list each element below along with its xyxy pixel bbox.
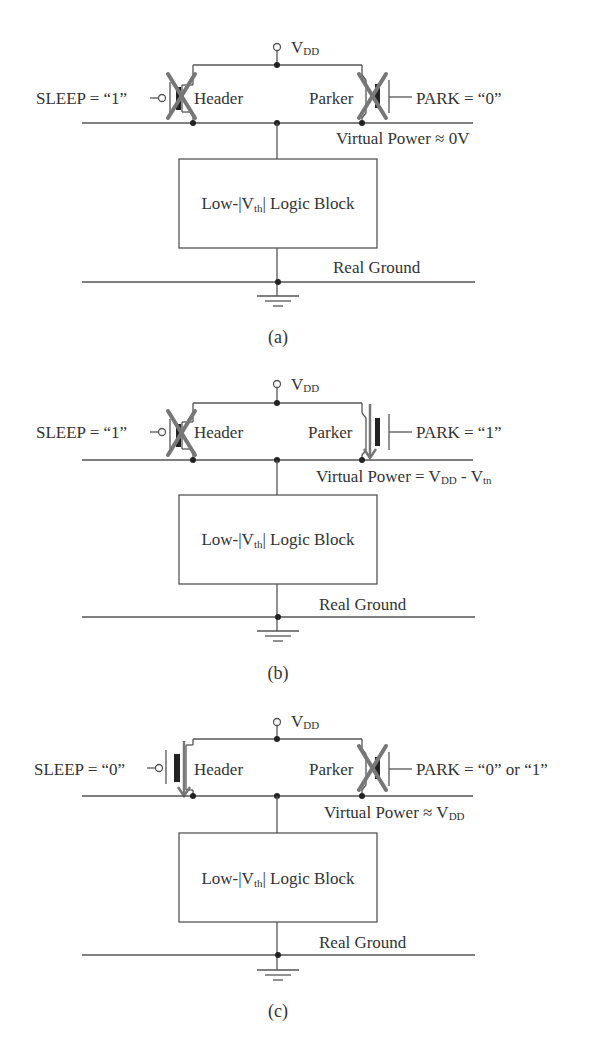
virtual-power-label: Virtual Power = VDD - Vtn	[316, 467, 492, 486]
panel-b: VDD SLEEP = “1” Header	[36, 375, 501, 684]
header-transistor	[150, 65, 195, 123]
header-label: Header	[194, 760, 243, 779]
parker-transistor	[359, 65, 412, 123]
parker-label: Parker	[309, 760, 354, 779]
sleep-signal-label: SLEEP = “1”	[36, 89, 127, 108]
header-label: Header	[194, 423, 243, 442]
real-ground-label: Real Ground	[333, 258, 421, 277]
ground-icon	[257, 296, 299, 306]
park-signal-label: PARK = “0”	[416, 89, 501, 108]
sleep-signal-label: SLEEP = “1”	[36, 423, 127, 442]
parker-label: Parker	[309, 89, 354, 108]
panel-caption: (a)	[268, 327, 288, 348]
panel-caption: (b)	[268, 663, 289, 684]
park-signal-label: PARK = “1”	[416, 423, 501, 442]
sleep-signal-label: SLEEP = “0”	[34, 760, 125, 779]
vdd-terminal-icon	[274, 44, 281, 51]
parker-transistor	[359, 739, 412, 796]
virtual-power-label: Virtual Power ≈ VDD	[324, 803, 465, 822]
virtual-power-label: Virtual Power ≈ 0V	[336, 129, 470, 148]
header-label: Header	[194, 89, 243, 108]
logic-block-label: Low-|Vth| Logic Block	[201, 869, 355, 889]
panel-c: VDD SLEEP = “0” Header	[34, 712, 548, 1022]
header-transistor	[150, 403, 195, 460]
real-ground-label: Real Ground	[319, 595, 407, 614]
ground-icon	[257, 970, 299, 980]
panel-caption: (c)	[268, 1001, 288, 1022]
vdd-label: VDD	[291, 38, 319, 57]
vdd-terminal-icon	[274, 381, 281, 388]
parker-label: Parker	[308, 423, 353, 442]
park-signal-label: PARK = “0” or “1”	[416, 760, 548, 779]
circuit-diagram: VDD SLEEP = “1” Header	[0, 0, 597, 1053]
parker-transistor	[362, 403, 412, 460]
vdd-terminal-icon	[274, 719, 281, 726]
logic-block-label: Low-|Vth| Logic Block	[201, 194, 355, 214]
panel-a: VDD SLEEP = “1” Header	[36, 38, 501, 348]
ground-icon	[257, 631, 299, 641]
real-ground-label: Real Ground	[319, 933, 407, 952]
vdd-label: VDD	[291, 375, 319, 394]
header-transistor	[147, 739, 193, 796]
logic-block-label: Low-|Vth| Logic Block	[201, 530, 355, 550]
vdd-label: VDD	[291, 712, 319, 731]
